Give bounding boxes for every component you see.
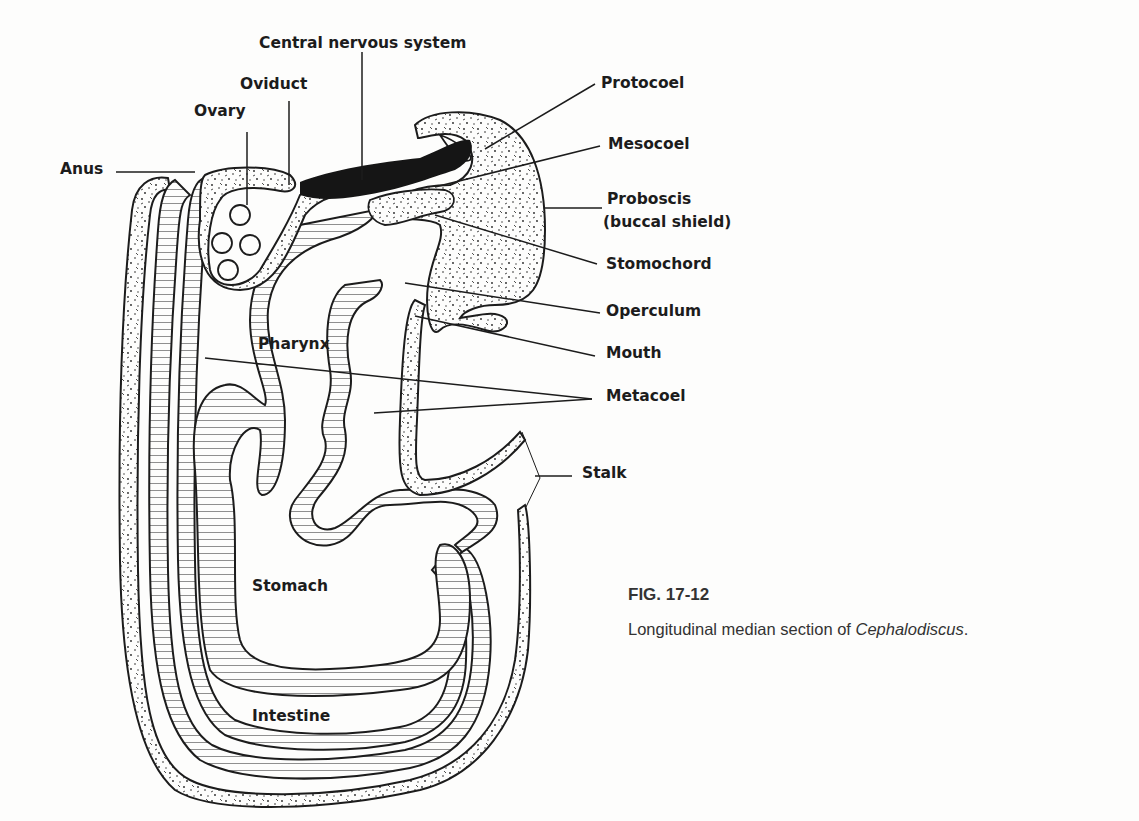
stalk-shape (522, 432, 540, 507)
caption-period: . (964, 620, 969, 638)
figure-number: FIG. 17-12 (628, 585, 709, 605)
label-intestine: Intestine (252, 708, 330, 726)
label-protocoel: Protocoel (601, 75, 684, 93)
label-pharynx: Pharynx (258, 336, 330, 354)
label-mouth: Mouth (606, 345, 662, 363)
label-central-nervous-system: Central nervous system (259, 35, 466, 53)
collar-wall (399, 300, 525, 495)
label-stalk: Stalk (582, 465, 627, 483)
label-stomach: Stomach (252, 578, 328, 596)
label-stomochord: Stomochord (606, 256, 712, 274)
caption-genus: Cephalodiscus (856, 620, 964, 638)
figure-caption: Longitudinal median section of Cephalodi… (628, 620, 968, 639)
label-proboscis: Proboscis (607, 191, 691, 209)
label-mesocoel: Mesocoel (608, 136, 689, 154)
cephalodiscus-section-drawing (0, 0, 1139, 821)
label-proboscis-sub: (buccal shield) (603, 214, 731, 232)
label-operculum: Operculum (606, 303, 701, 321)
label-metacoel: Metacoel (606, 388, 685, 406)
label-oviduct: Oviduct (240, 76, 307, 94)
label-anus: Anus (60, 161, 103, 179)
label-ovary: Ovary (194, 103, 246, 121)
caption-text: Longitudinal median section of (628, 620, 856, 638)
